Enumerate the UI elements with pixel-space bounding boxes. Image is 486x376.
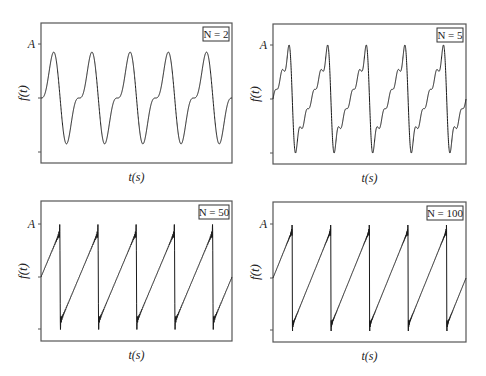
x-axis-label: t(s) [129,348,145,362]
signal-line [41,52,232,144]
panel-n100: N = 100 A f(t) t(s) [247,202,466,363]
signal-line [273,225,466,331]
legend-label: N = 100 [427,207,464,219]
legend-label: N = 5 [437,29,463,41]
legend-box: N = 100 [427,206,464,220]
signal-line [41,225,232,330]
y-axis-label: f(t) [247,264,262,280]
figure: N = 2 A f(t) t(s) N = 5 A f(t) t(s) N = … [0,0,486,376]
ytick-label-a: A [259,38,268,52]
legend-label: N = 2 [203,28,228,40]
legend-box: N = 50 [199,205,230,219]
legend-label: N = 50 [199,206,230,218]
ytick-label-a: A [27,37,36,51]
ytick-label-a: A [259,217,268,231]
x-axis-label: t(s) [362,349,378,363]
y-axis-label: f(t) [15,85,30,101]
panel-n50: N = 50 A f(t) t(s) [15,201,232,362]
signal-line [273,45,466,153]
ytick-label-a: A [27,217,36,231]
legend-box: N = 2 [203,27,229,41]
legend-box: N = 5 [437,28,463,42]
y-axis-label: f(t) [15,263,30,279]
x-axis-label: t(s) [362,171,378,185]
y-axis-label: f(t) [247,86,262,102]
x-axis-label: t(s) [129,170,145,184]
panel-n2: N = 2 A f(t) t(s) [15,23,232,184]
panel-n5: N = 5 A f(t) t(s) [247,24,466,185]
